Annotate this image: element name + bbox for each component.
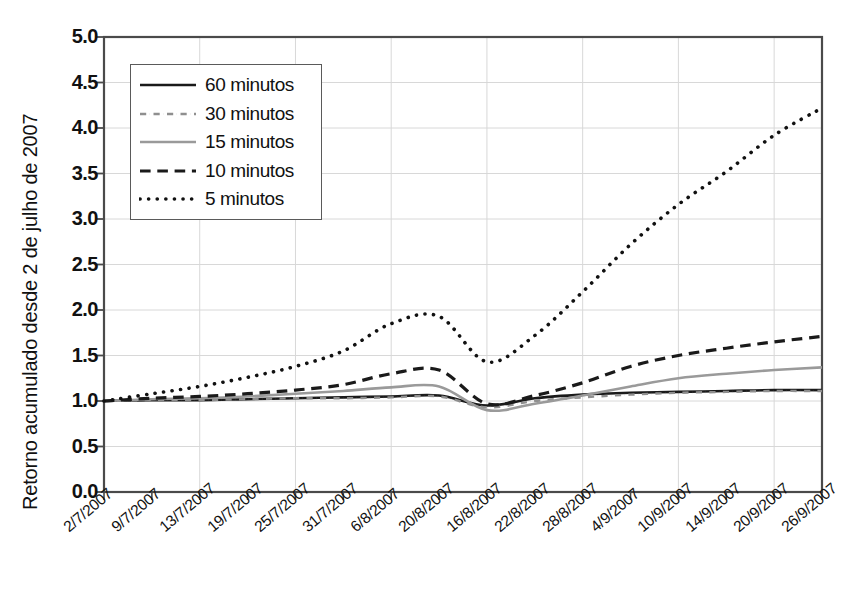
y-tick-label: 3.0 (44, 207, 98, 230)
y-tick-label: 1.0 (44, 389, 98, 412)
chart-figure: Retorno acumulado desde 2 de julho de 20… (0, 0, 850, 613)
x-axis-tick-labels: 2/7/20079/7/200713/7/200719/7/200725/7/2… (0, 500, 850, 613)
legend-item: 15 minutos (139, 128, 313, 157)
legend-swatch-icon (139, 192, 197, 206)
legend-label: 10 minutos (205, 160, 294, 182)
legend-swatch-icon (139, 135, 197, 149)
series-line-10-minutos (104, 336, 822, 404)
y-tick-label: 1.5 (44, 344, 98, 367)
legend-item: 60 minutos (139, 71, 313, 100)
legend-item: 5 minutos (139, 185, 313, 214)
legend-label: 60 minutos (205, 74, 294, 96)
y-tick-label: 4.0 (44, 116, 98, 139)
y-tick-label: 2.5 (44, 253, 98, 276)
legend-swatch-icon (139, 107, 197, 121)
legend-swatch-icon (139, 78, 197, 92)
y-tick-label: 4.5 (44, 71, 98, 94)
legend-label: 5 minutos (205, 188, 284, 210)
legend-item: 30 minutos (139, 100, 313, 129)
y-tick-label: 0.5 (44, 435, 98, 458)
y-tick-label: 5.0 (44, 25, 98, 48)
legend-label: 30 minutos (205, 103, 294, 125)
legend-swatch-icon (139, 164, 197, 178)
y-tick-label: 2.0 (44, 298, 98, 321)
legend-label: 15 minutos (205, 131, 294, 153)
y-tick-label: 3.5 (44, 162, 98, 185)
legend-item: 10 minutos (139, 157, 313, 186)
chart-legend: 60 minutos30 minutos15 minutos10 minutos… (130, 64, 322, 220)
